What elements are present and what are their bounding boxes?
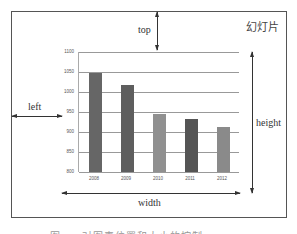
y-tick-label: 1100 bbox=[48, 49, 74, 54]
bar-2011 bbox=[185, 119, 198, 172]
x-tick-label: 2012 bbox=[207, 176, 237, 181]
height-label: height bbox=[256, 117, 281, 128]
figure-caption: 图 ... 对图表位置和大小的控制 bbox=[50, 228, 203, 234]
gridline bbox=[79, 52, 239, 53]
top-arrow bbox=[157, 12, 158, 50]
left-label: left bbox=[28, 101, 41, 112]
arrow-up-icon bbox=[155, 11, 159, 17]
width-label: width bbox=[138, 197, 161, 208]
top-label: top bbox=[138, 24, 151, 35]
y-tick-label: 950 bbox=[48, 109, 74, 114]
y-tick-label: 800 bbox=[48, 169, 74, 174]
bar-2009 bbox=[121, 85, 134, 172]
arrow-right-icon bbox=[235, 191, 241, 195]
x-tick-label: 2011 bbox=[175, 176, 205, 181]
gridline bbox=[79, 72, 239, 73]
x-tick-label: 2008 bbox=[79, 176, 109, 181]
gridline bbox=[79, 92, 239, 93]
y-tick-label: 900 bbox=[48, 129, 74, 134]
y-tick-label: 850 bbox=[48, 149, 74, 154]
arrow-up-icon bbox=[250, 51, 254, 57]
arrow-left-icon bbox=[11, 114, 17, 118]
width-arrow bbox=[62, 193, 240, 194]
x-tick-label: 2009 bbox=[111, 176, 141, 181]
gridline bbox=[79, 172, 239, 173]
y-tick-label: 1050 bbox=[48, 69, 74, 74]
bar-chart: 1100105010009509008508002008200920102011… bbox=[48, 46, 243, 181]
height-arrow bbox=[252, 52, 253, 193]
slide-label: 幻灯片 bbox=[246, 18, 279, 34]
arrow-left-icon bbox=[61, 191, 67, 195]
bar-2012 bbox=[217, 127, 230, 172]
arrow-down-icon bbox=[250, 188, 254, 194]
bar-2010 bbox=[153, 114, 166, 172]
y-tick-label: 1000 bbox=[48, 89, 74, 94]
x-tick-label: 2010 bbox=[143, 176, 173, 181]
gridline bbox=[79, 112, 239, 113]
bar-2008 bbox=[89, 73, 102, 172]
plot-area bbox=[78, 52, 239, 172]
